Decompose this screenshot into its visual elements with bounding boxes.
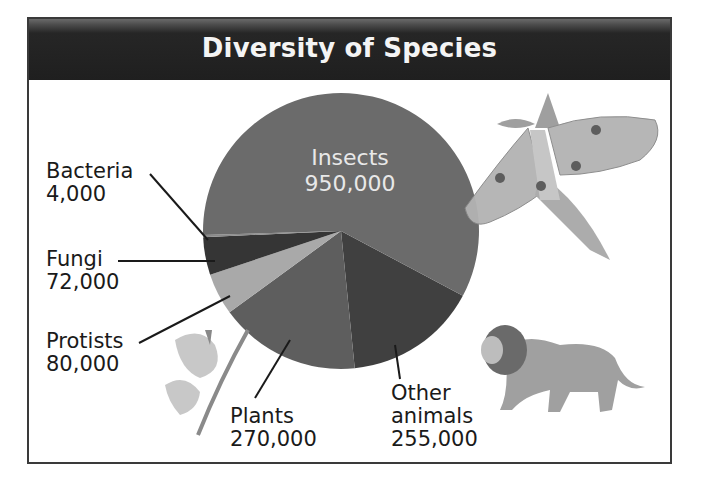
fungi-name: Fungi	[46, 248, 119, 271]
lion-icon	[481, 325, 645, 412]
insects-value: 950,000	[290, 171, 410, 197]
protists-value: 80,000	[46, 353, 124, 376]
label-fungi: Fungi 72,000	[46, 248, 119, 294]
plants-name: Plants	[230, 405, 317, 428]
label-plants: Plants 270,000	[230, 405, 317, 451]
protists-name: Protists	[46, 330, 124, 353]
pie-chart	[0, 0, 708, 486]
label-bacteria: Bacteria 4,000	[46, 160, 133, 206]
other-animals-name-2: animals	[391, 405, 478, 428]
label-insects: Insects 950,000	[290, 145, 410, 197]
label-other-animals: Other animals 255,000	[391, 382, 478, 451]
label-protists: Protists 80,000	[46, 330, 124, 376]
fungi-value: 72,000	[46, 271, 119, 294]
other-animals-value: 255,000	[391, 428, 478, 451]
moth-icon	[465, 93, 658, 260]
pie-slices	[203, 93, 479, 369]
plants-value: 270,000	[230, 428, 317, 451]
bacteria-value: 4,000	[46, 183, 133, 206]
insects-name: Insects	[290, 145, 410, 171]
other-animals-name-1: Other	[391, 382, 478, 405]
bacteria-name: Bacteria	[46, 160, 133, 183]
